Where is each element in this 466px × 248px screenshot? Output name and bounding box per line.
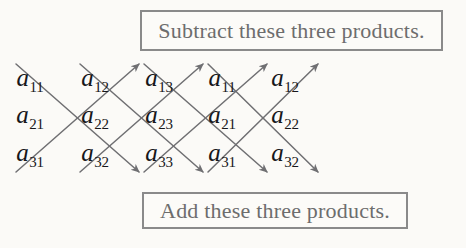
matrix-entry-r2c2: a22: [81, 102, 109, 132]
matrix-entry-r3c5: a32: [271, 140, 299, 170]
matrix-entry-base: a: [16, 139, 29, 166]
matrix-entry-base: a: [145, 139, 158, 166]
matrix-entry-subscript: 32: [94, 154, 109, 170]
matrix-entry-r2c1: a21: [16, 102, 44, 132]
sarrus-rule-figure: Subtract these three products. a11: [0, 0, 466, 248]
matrix-entry-r1c5: a12: [271, 65, 299, 95]
matrix-entry-base: a: [271, 101, 284, 128]
matrix-entry-subscript: 31: [221, 154, 236, 170]
matrix-entry-base: a: [145, 64, 158, 91]
matrix-entry-r3c1: a31: [16, 140, 44, 170]
matrix-entry-subscript: 21: [29, 116, 44, 132]
matrix-entry-subscript: 13: [158, 79, 173, 95]
matrix-entry-subscript: 32: [284, 154, 299, 170]
matrix-entry-subscript: 12: [94, 79, 109, 95]
matrix-entry-base: a: [208, 64, 221, 91]
matrix-entry-r1c4: a11: [208, 65, 235, 95]
matrix-entry-r1c2: a12: [81, 65, 109, 95]
matrix-entry-r2c5: a22: [271, 102, 299, 132]
matrix-entry-base: a: [271, 139, 284, 166]
matrix-entry-r2c3: a23: [145, 102, 173, 132]
matrix-entry-base: a: [145, 101, 158, 128]
matrix-entry-r3c3: a33: [145, 140, 173, 170]
matrix-entry-base: a: [81, 139, 94, 166]
callout-add: Add these three products.: [142, 192, 408, 229]
matrix-entry-r3c2: a32: [81, 140, 109, 170]
matrix-entry-subscript: 33: [158, 154, 173, 170]
matrix-entry-r1c3: a13: [145, 65, 173, 95]
matrix-entry-subscript: 31: [29, 154, 44, 170]
matrix-entry-base: a: [81, 64, 94, 91]
matrix-entry-subscript: 12: [284, 79, 299, 95]
matrix-entry-subscript: 22: [284, 116, 299, 132]
matrix-entry-base: a: [16, 64, 29, 91]
matrix-entry-subscript: 22: [94, 116, 109, 132]
matrix-entry-base: a: [16, 101, 29, 128]
matrix-entry-base: a: [271, 64, 284, 91]
matrix-entry-grid: a11 a12 a13 a11 a12 a21 a22 a23 a21 a22 …: [0, 55, 340, 190]
matrix-entry-subscript: 11: [29, 79, 43, 95]
matrix-entry-subscript: 23: [158, 116, 173, 132]
callout-add-label: Add these three products.: [160, 198, 390, 224]
matrix-entry-base: a: [208, 139, 221, 166]
matrix-entry-subscript: 21: [221, 116, 236, 132]
matrix-entry-base: a: [81, 101, 94, 128]
matrix-entry-r3c4: a31: [208, 140, 236, 170]
callout-subtract-label: Subtract these three products.: [158, 18, 424, 44]
matrix-entry-base: a: [208, 101, 221, 128]
matrix-entry-subscript: 11: [221, 79, 235, 95]
callout-subtract: Subtract these three products.: [140, 10, 443, 51]
matrix-entry-r1c1: a11: [16, 65, 43, 95]
matrix-entry-r2c4: a21: [208, 102, 236, 132]
